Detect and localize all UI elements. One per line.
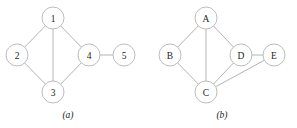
graph-node: 3 [42, 81, 64, 103]
graph-node: C [195, 81, 217, 103]
caption-a: (a) [62, 110, 73, 120]
graph-node: B [159, 44, 181, 66]
graph-edge [61, 63, 82, 84]
graph-edge [178, 26, 199, 47]
graph-node: 5 [113, 44, 135, 66]
graph-node-label: 1 [51, 14, 56, 24]
graph-edge [178, 63, 199, 84]
graph-node-label: 3 [51, 88, 56, 98]
graph-edge [25, 63, 46, 84]
graph-edge [214, 63, 234, 84]
graph-figure: 12345 (a) ABCDE (b) [0, 0, 297, 128]
graph-node-label: 5 [122, 51, 127, 61]
graph-b-canvas: ABCDE [147, 0, 297, 128]
graph-node-label: E [271, 51, 277, 61]
graph-node: 4 [78, 44, 100, 66]
caption-b: (b) [216, 110, 227, 120]
graph-node-label: A [203, 14, 210, 24]
graph-node: 1 [42, 7, 64, 29]
graph-edge [214, 26, 234, 47]
graph-edge [61, 26, 82, 47]
graph-node-label: C [203, 88, 209, 98]
graph-node-label: D [238, 51, 245, 61]
graph-node-label: 2 [15, 51, 20, 61]
graph-edge [25, 26, 46, 47]
graph-node: D [230, 44, 252, 66]
graph-node-label: B [167, 51, 173, 61]
graph-panel-b: ABCDE (b) [147, 0, 297, 128]
graph-node: A [195, 7, 217, 29]
graph-node: E [263, 44, 285, 66]
graph-node: 2 [6, 44, 28, 66]
graph-node-label: 4 [87, 51, 92, 61]
graph-panel-a: 12345 (a) [0, 0, 150, 128]
graph-a-canvas: 12345 [0, 0, 150, 128]
